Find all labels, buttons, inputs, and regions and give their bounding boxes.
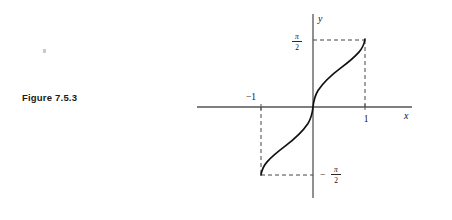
figure-page: Figure 7.5.3 y x −1 1 π 2 − [0, 0, 452, 220]
arcsine-graph: y x −1 1 π 2 − π 2 [0, 0, 452, 220]
y-tick-label-negative-pi-over-2: − π 2 [320, 165, 341, 185]
y-tick-label-pi-over-2: π 2 [292, 32, 302, 52]
two-denominator-lower: 2 [334, 176, 338, 185]
pi-numerator: π [295, 32, 299, 41]
x-axis-label: x [403, 110, 409, 121]
two-denominator: 2 [295, 43, 299, 52]
x-tick-label-minus-one: −1 [246, 92, 256, 102]
x-tick-label-one: 1 [364, 114, 369, 124]
negative-sign: − [320, 170, 325, 180]
pi-numerator-lower: π [334, 165, 338, 174]
y-axis-label: y [317, 13, 323, 24]
